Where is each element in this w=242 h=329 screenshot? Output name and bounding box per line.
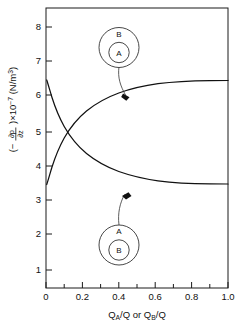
- y-tick-label: 6: [36, 89, 41, 100]
- y-tick-labels: 8 7 6 5 4 3 2 1: [36, 21, 41, 275]
- y-tick-label: 4: [36, 160, 41, 171]
- fraction-numerator: ∂p: [7, 130, 16, 138]
- lower-inner-label: B: [116, 246, 121, 255]
- lower-leader-line: [119, 195, 125, 226]
- figure-container: 8 7 6 5 4 3 2 1 0 0.2: [0, 0, 242, 329]
- x-title-q2: Q: [144, 309, 151, 320]
- svg-text:QA/Q or QB/Q: QA/Q or QB/Q: [108, 309, 166, 321]
- y-title-minus: −: [7, 143, 18, 149]
- y-tick-label: 5: [36, 126, 41, 137]
- curve-descending-B-outer-A-inner: [47, 80, 228, 184]
- lower-outer-label: A: [116, 227, 122, 236]
- y-tick-label: 7: [36, 55, 41, 66]
- x-tick-label: 1.0: [221, 291, 234, 302]
- x-tick-label: 0.2: [76, 291, 89, 302]
- x-tick-labels: 0 0.2 0.4 0.6 0.8 1.0: [43, 291, 234, 302]
- x-tick-label: 0.4: [112, 291, 125, 302]
- svg-text:(−: (−: [7, 143, 18, 152]
- lower-callout: A B: [99, 192, 139, 265]
- y-title-units-close: ): [7, 67, 18, 70]
- upper-callout: B A: [99, 28, 139, 101]
- lower-arrowhead: [122, 192, 132, 199]
- y-tick-label: 3: [36, 194, 41, 205]
- x-axis-title: QA/Q or QB/Q: [108, 309, 166, 321]
- y-title-times: ×10: [7, 105, 18, 121]
- y-title-units: (N/m: [7, 74, 18, 95]
- x-axis-minor-ticks: [64, 284, 210, 288]
- x-tick-label: 0.6: [149, 291, 162, 302]
- x-title-over-q: /Q: [120, 309, 130, 320]
- curve-ascending-A-outer-B-inner: [47, 81, 228, 185]
- x-title-or: or: [133, 309, 141, 320]
- pressure-gradient-chart: 8 7 6 5 4 3 2 1 0 0.2: [0, 0, 242, 329]
- y-axis-title: (− ∂p ∂z )×10−7 (N/m3): [7, 67, 25, 153]
- fraction-denominator: ∂z: [16, 130, 25, 138]
- x-title-over-q2: /Q: [156, 309, 166, 320]
- x-tick-label: 0: [43, 291, 48, 302]
- y-tick-label: 1: [36, 264, 41, 275]
- x-tick-label: 0.8: [185, 291, 198, 302]
- y-tick-label: 2: [36, 228, 41, 239]
- y-title-fraction: ∂p ∂z: [7, 128, 25, 141]
- svg-text:)×10−7 (N/m3): )×10−7 (N/m3): [7, 67, 18, 124]
- y-tick-label: 8: [36, 21, 41, 32]
- upper-inner-label: A: [116, 49, 122, 58]
- upper-outer-label: B: [116, 30, 121, 39]
- y-axis-major-ticks: [46, 27, 52, 270]
- x-title-q: Q: [108, 309, 115, 320]
